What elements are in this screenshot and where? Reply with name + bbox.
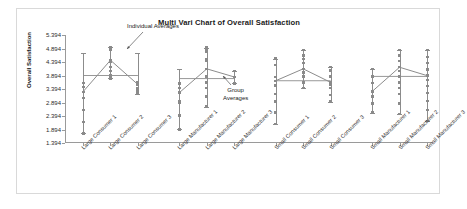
data-point xyxy=(82,82,85,84)
data-point xyxy=(329,66,332,68)
data-point xyxy=(233,70,236,72)
data-point xyxy=(398,49,401,51)
chart-title: Multi Vari Chart of Overall Satisfaction xyxy=(17,18,441,27)
data-point xyxy=(398,66,401,68)
data-point xyxy=(426,109,429,111)
data-point xyxy=(329,75,332,77)
data-point xyxy=(109,59,112,61)
data-point xyxy=(302,81,305,83)
data-point xyxy=(82,86,85,88)
data-point xyxy=(274,57,277,59)
data-point xyxy=(178,87,181,89)
data-point xyxy=(398,75,401,77)
data-point xyxy=(398,60,401,62)
data-point xyxy=(205,95,208,97)
data-point xyxy=(426,85,429,87)
data-point xyxy=(302,54,305,56)
data-point xyxy=(205,68,208,70)
data-point xyxy=(371,111,374,113)
y-tick-mark xyxy=(62,49,65,50)
annotation-arrowhead xyxy=(223,76,226,79)
data-point xyxy=(302,49,305,51)
annotation-leader-line xyxy=(127,32,143,49)
plot-area: 5.3944.8944.3943.8943.3942.8942.3941.894… xyxy=(65,35,433,143)
data-point xyxy=(205,46,208,48)
annotation-group-averages: GroupAverages xyxy=(223,87,248,102)
annotation-individual-averages: Individual Averages xyxy=(127,23,179,31)
data-point xyxy=(274,84,277,86)
y-tick-label: 4.394 xyxy=(46,59,61,65)
data-point xyxy=(371,95,374,97)
data-point xyxy=(178,91,181,93)
data-point xyxy=(371,102,374,104)
data-point xyxy=(398,87,401,89)
annotation-group-averages-line1: Group xyxy=(223,87,248,95)
data-point xyxy=(136,90,139,92)
data-point xyxy=(302,58,305,60)
data-point xyxy=(205,58,208,60)
data-point xyxy=(398,93,401,95)
data-point xyxy=(426,92,429,94)
data-point xyxy=(205,87,208,89)
data-point xyxy=(205,81,208,83)
y-tick-mark xyxy=(62,116,65,117)
data-point xyxy=(178,82,181,84)
y-tick-label: 2.894 xyxy=(46,100,61,106)
data-point xyxy=(274,123,277,125)
y-tick-label: 3.894 xyxy=(46,73,61,79)
data-point xyxy=(329,84,332,86)
y-tick-mark xyxy=(62,130,65,131)
data-point xyxy=(426,74,429,76)
data-point xyxy=(302,62,305,64)
y-tick-mark xyxy=(62,89,65,90)
data-point xyxy=(329,94,332,96)
data-point xyxy=(426,49,429,51)
annotation-group-averages-line2: Averages xyxy=(223,95,248,103)
data-point xyxy=(205,49,208,51)
data-point xyxy=(426,56,429,58)
y-tick-mark xyxy=(62,62,65,63)
data-point xyxy=(398,81,401,83)
data-point xyxy=(233,82,236,84)
data-point xyxy=(398,70,401,72)
data-point xyxy=(82,91,85,93)
annotation-leader-line xyxy=(223,76,231,85)
chart-container: Multi Vari Chart of Overall Satisfaction… xyxy=(16,8,440,194)
data-point xyxy=(371,68,374,70)
y-tick-mark xyxy=(62,103,65,104)
y-tick-mark xyxy=(62,143,65,144)
data-point xyxy=(302,87,305,89)
data-point xyxy=(109,49,112,51)
data-point xyxy=(136,81,139,83)
data-point xyxy=(82,121,85,123)
data-point xyxy=(274,64,277,66)
data-point xyxy=(329,100,332,102)
data-point xyxy=(371,90,374,92)
whisker-cap xyxy=(81,53,86,54)
data-point xyxy=(109,70,112,72)
y-tick-label: 4.894 xyxy=(46,46,61,52)
data-point xyxy=(233,76,236,78)
y-tick-label: 5.394 xyxy=(46,32,61,38)
data-point xyxy=(426,68,429,70)
annotation-arrowhead xyxy=(127,46,130,49)
data-point xyxy=(109,66,112,68)
data-point xyxy=(274,93,277,95)
data-point xyxy=(82,132,85,134)
y-tick-mark xyxy=(62,76,65,77)
y-tick-label: 3.394 xyxy=(46,86,61,92)
data-point xyxy=(426,100,429,102)
data-point xyxy=(398,54,401,56)
y-tick-label: 1.394 xyxy=(46,140,61,146)
data-point xyxy=(205,105,208,107)
whisker-cap xyxy=(135,53,140,54)
data-point xyxy=(178,100,181,102)
y-tick-label: 1.894 xyxy=(46,127,61,133)
data-point xyxy=(274,80,277,82)
data-point xyxy=(302,75,305,77)
data-point xyxy=(274,100,277,102)
data-point xyxy=(371,75,374,77)
whisker-cap xyxy=(177,69,182,70)
data-point xyxy=(274,76,277,78)
data-point xyxy=(178,128,181,130)
